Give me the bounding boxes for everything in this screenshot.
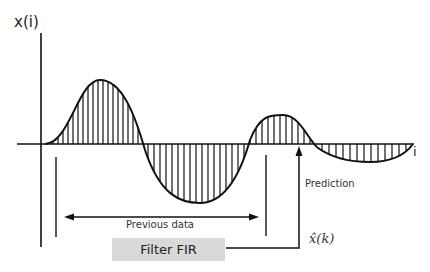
x-axis-label: i (413, 144, 417, 159)
prediction-label: Prediction (305, 178, 355, 189)
y-axis-label: x(i) (14, 13, 39, 31)
signal-curve (45, 80, 413, 203)
previous-data-label: Previous data (126, 219, 194, 230)
output-estimate-label: x̂(k) (309, 231, 334, 246)
filter-fir-box: Filter FIR (112, 238, 225, 261)
hatched-samples (48, 60, 406, 220)
signal-diagram (0, 0, 430, 272)
